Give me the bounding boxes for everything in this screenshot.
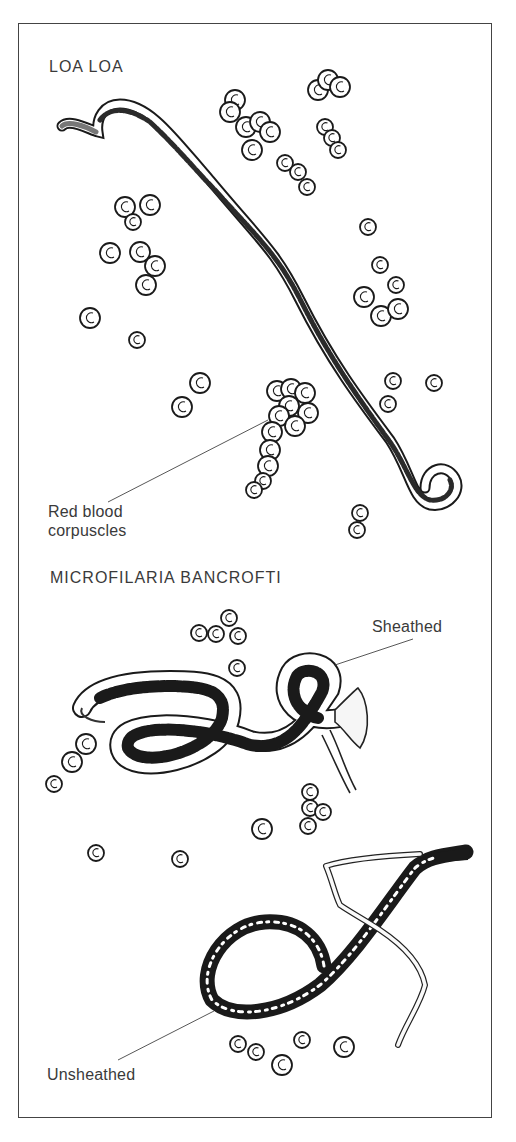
label-red-blood-line2: corpuscles <box>48 521 126 540</box>
red-blood-corpuscle-cluster <box>246 379 318 498</box>
section-title-loa-loa: LOA LOA <box>49 57 124 76</box>
sheathed-microfilaria <box>81 662 367 793</box>
label-red-blood-line1: Red blood <box>48 502 123 521</box>
unsheathed-leader-line <box>118 1011 214 1060</box>
label-sheathed: Sheathed <box>372 617 442 636</box>
rbc-leader-line <box>108 420 268 502</box>
label-unsheathed: Unsheathed <box>47 1065 135 1084</box>
unsheathed-microfilaria <box>207 848 470 1045</box>
section-title-microfilaria-bancrofti: MICROFILARIA BANCROFTI <box>50 568 282 587</box>
sheathed-leader-line <box>335 639 413 665</box>
